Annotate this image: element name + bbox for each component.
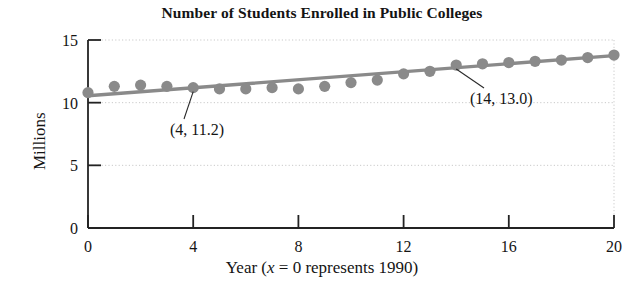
y-tick-label: 10 <box>62 95 78 112</box>
annotation-leader-line <box>184 92 193 119</box>
tick-marks <box>88 40 614 228</box>
annotation-leader-line <box>456 69 484 88</box>
data-point <box>345 77 356 88</box>
data-point <box>530 56 541 67</box>
data-point <box>424 66 435 77</box>
x-tick-label: 4 <box>189 238 197 255</box>
gridlines <box>88 40 614 228</box>
data-point <box>556 54 567 65</box>
data-point <box>608 49 619 60</box>
x-tick-label: 20 <box>606 238 622 255</box>
data-point <box>109 81 120 92</box>
data-point <box>503 57 514 68</box>
axis-frame <box>88 40 614 228</box>
plot-area: 051015048121620 (4, 11.2)(14, 13.0) <box>0 0 644 294</box>
data-point <box>293 83 304 94</box>
data-point <box>451 59 462 70</box>
x-tick-label: 16 <box>501 238 517 255</box>
data-point <box>188 82 199 93</box>
x-tick-label: 8 <box>294 238 302 255</box>
annotation-label: (14, 13.0) <box>470 90 533 108</box>
x-tick-label: 12 <box>396 238 412 255</box>
data-point <box>214 83 225 94</box>
y-tick-label: 0 <box>70 220 78 237</box>
data-point <box>82 87 93 98</box>
data-point <box>398 68 409 79</box>
data-point <box>372 75 383 86</box>
data-point <box>582 52 593 63</box>
y-tick-label: 15 <box>62 32 78 49</box>
data-point <box>161 81 172 92</box>
data-point <box>267 82 278 93</box>
x-tick-label: 0 <box>84 238 92 255</box>
y-tick-label: 5 <box>70 157 78 174</box>
data-point <box>240 83 251 94</box>
data-point <box>135 80 146 91</box>
chart-container: Number of Students Enrolled in Public Co… <box>0 0 644 294</box>
annotation-label: (4, 11.2) <box>170 121 224 139</box>
data-point <box>319 81 330 92</box>
data-point <box>477 58 488 69</box>
